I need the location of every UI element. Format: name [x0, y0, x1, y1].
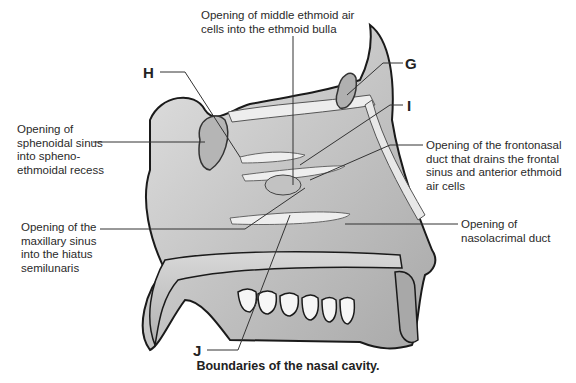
letter-i: I: [407, 97, 411, 114]
letter-j: J: [193, 342, 201, 359]
label-nasolacrimal-duct-opening: Opening of nasolacrimal duct: [461, 218, 550, 245]
label-maxillary-sinus-opening: Opening of the maxillary sinus into the …: [21, 221, 96, 275]
letter-h: H: [143, 64, 154, 81]
label-sphenoidal-sinus-opening: Opening of sphenoidal sinus into spheno-…: [17, 123, 104, 177]
figure-caption: Boundaries of the nasal cavity.: [0, 359, 576, 373]
label-frontonasal-duct-opening: Opening of the frontonasal duct that dra…: [426, 139, 562, 193]
ethmoid-bulla: [265, 175, 301, 195]
nasal-cavity-figure: Opening of middle ethmoid air cells into…: [0, 0, 576, 383]
label-middle-ethmoid-opening: Opening of middle ethmoid air cells into…: [201, 9, 354, 36]
letter-g: G: [405, 55, 417, 72]
